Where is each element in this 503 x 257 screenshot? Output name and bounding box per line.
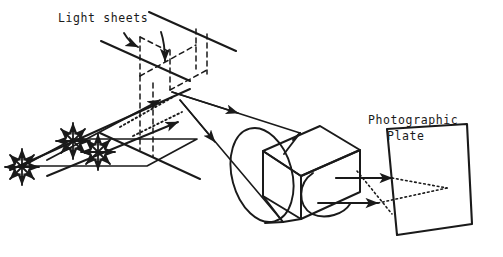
light-sheets-label: Light sheets bbox=[58, 11, 148, 25]
photographic-plate-label-line1: Photographic bbox=[368, 113, 458, 127]
sheet-ticks bbox=[140, 76, 153, 157]
cone-aperture-arc bbox=[301, 173, 350, 216]
scatterer-left bbox=[5, 149, 39, 185]
reference-ray-dotted-upper bbox=[120, 97, 173, 127]
light-sheet-upper bbox=[149, 12, 236, 51]
leader-arrow-right bbox=[161, 32, 165, 61]
light-sheet-lower bbox=[101, 41, 190, 81]
light-sheet-droppers bbox=[140, 29, 207, 90]
holography-figure: Light sheets Photographic Plate bbox=[0, 0, 503, 257]
scatterer-middle bbox=[56, 123, 90, 159]
figure-canvas: Light sheets Photographic Plate bbox=[0, 0, 503, 257]
leader-arrow-left bbox=[124, 33, 138, 47]
converging-beam-bottom bbox=[180, 100, 283, 222]
photographic-plate-label-line2: Plate bbox=[387, 129, 425, 143]
object-ray-upper bbox=[47, 100, 160, 160]
